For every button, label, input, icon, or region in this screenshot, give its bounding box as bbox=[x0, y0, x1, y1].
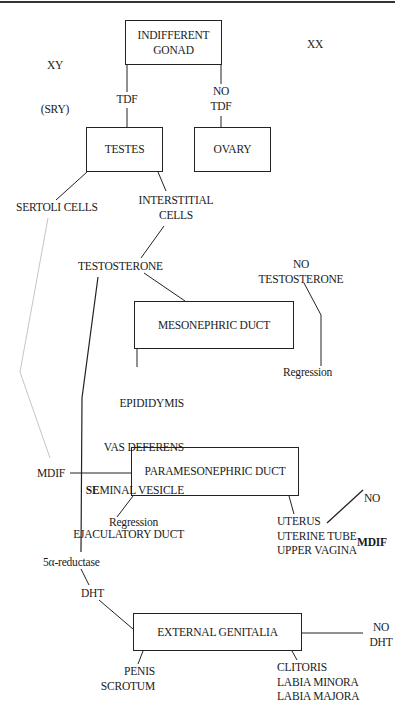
connector-sertoli-mdif bbox=[20, 218, 50, 458]
regression-mesonephric-label: Regression bbox=[283, 365, 332, 380]
regression-paramesonephric-label: Regression bbox=[109, 515, 158, 530]
interstitial-cells-label: INTERSTITIAL CELLS bbox=[133, 193, 219, 222]
no-testosterone-label: NO TESTOSTERONE bbox=[255, 257, 347, 286]
connector-dht-external bbox=[99, 600, 133, 629]
genotype-xx: XX bbox=[300, 37, 330, 52]
derivative-vas-deferens: VAS DEFERENS bbox=[60, 440, 184, 455]
dht-label: DHT bbox=[81, 586, 104, 601]
seminal-prefix: SE bbox=[86, 484, 100, 496]
connector-notestosterone-regression bbox=[304, 283, 321, 366]
derivative-seminal-vesicle: SEMINAL VESICLE bbox=[60, 483, 184, 498]
connector-testes-sertoli bbox=[56, 172, 87, 200]
no-dht-label: NO DHT bbox=[366, 620, 396, 649]
mdif-label: MDIF bbox=[37, 466, 65, 481]
connector-external-penis bbox=[138, 651, 143, 664]
derivative-epididymis: EPIDIDYMIS bbox=[60, 396, 184, 411]
male-genitalia-label: PENIS SCROTUM bbox=[95, 664, 155, 693]
no-mdif-mdif: MDIF bbox=[354, 535, 390, 550]
mesonephric-duct-box: MESONEPHRIC DUCT bbox=[134, 301, 294, 349]
genotype-sry-label: (SRY) bbox=[30, 102, 80, 117]
no-mdif-no: NO bbox=[354, 491, 390, 506]
testes-box: TESTES bbox=[86, 127, 163, 172]
sertoli-cells-label: SERTOLI CELLS bbox=[16, 200, 98, 215]
genotype-xy: XY (SRY) bbox=[30, 29, 80, 145]
ovary-box: OVARY bbox=[194, 127, 271, 172]
paramesonephric-derivatives-list: UTERUS UTERINE TUBE UPPER VAGINA bbox=[277, 514, 357, 558]
connector-testes-interstitial bbox=[158, 172, 166, 191]
genotype-xy-label: XY bbox=[30, 58, 80, 73]
connector-interstitial-testosterone bbox=[141, 226, 164, 258]
no-mdif-label: NO MDIF bbox=[354, 462, 390, 578]
mesonephric-derivatives-list: EPIDIDYMIS VAS DEFERENS SEMINAL VESICLE … bbox=[60, 367, 184, 570]
connector-reductase-dht bbox=[81, 569, 89, 585]
five-alpha-reductase-label: 5α-reductase bbox=[43, 555, 100, 570]
connector-paramesonephric-uterus bbox=[289, 496, 294, 514]
female-genitalia-label: CLITORIS LABIA MINORA LABIA MAJORA bbox=[277, 660, 359, 704]
connector-external-clitoris bbox=[292, 651, 297, 660]
no-tdf-label: NO TDF bbox=[206, 84, 236, 113]
sex-differentiation-diagram: XY (SRY) XX INDIFFERENT GONAD TESTES OVA… bbox=[0, 0, 406, 718]
indifferent-gonad-box: INDIFFERENT GONAD bbox=[125, 20, 222, 65]
seminal-rest: MINAL VESICLE bbox=[99, 484, 184, 496]
tdf-label: TDF bbox=[112, 92, 142, 107]
testosterone-label: TESTOSTERONE bbox=[78, 259, 163, 274]
connector-testosterone-mesonephric bbox=[144, 273, 185, 301]
external-genitalia-box: EXTERNAL GENITALIA bbox=[133, 613, 302, 651]
